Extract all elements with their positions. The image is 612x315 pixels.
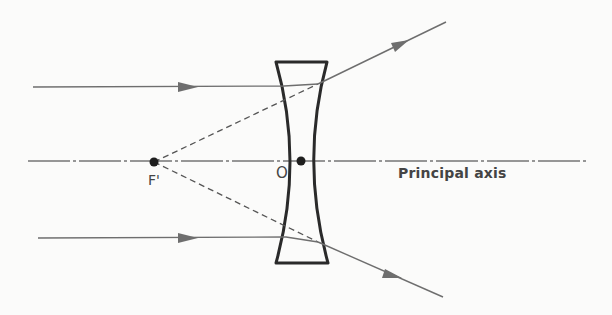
refracted-ray-top [318, 22, 446, 84]
concave-lens-diagram: F' O Principal axis [0, 0, 612, 315]
arrow-icon-incident-top [178, 82, 198, 92]
focal-point-label: F' [148, 172, 160, 188]
principal-axis-label: Principal axis [398, 165, 507, 181]
arrow-icon-refracted-bottom [382, 269, 402, 278]
virtual-ray-top [154, 84, 318, 162]
virtual-ray-bottom [154, 162, 318, 242]
arrow-icon-refracted-top [391, 40, 409, 52]
focal-point-marker [150, 158, 159, 167]
optical-centre-marker [297, 157, 306, 166]
optical-centre-label: O [276, 164, 288, 182]
refracted-ray-bottom [318, 242, 443, 297]
incident-ray-top [33, 84, 318, 87]
arrow-icon-incident-bottom [178, 233, 198, 243]
